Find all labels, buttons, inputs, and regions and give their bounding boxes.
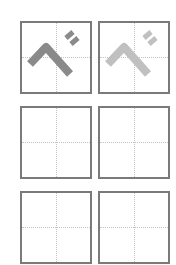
be-glyph-model: [22, 23, 90, 92]
practice-cell-blank[interactable]: [98, 191, 170, 264]
be-glyph-trace: [100, 23, 168, 92]
practice-cell-model: [20, 21, 92, 94]
horizontal-guide-line: [22, 142, 90, 143]
practice-cell-blank[interactable]: [20, 106, 92, 179]
practice-cell-trace: [98, 21, 170, 94]
horizontal-guide-line: [22, 227, 90, 228]
practice-cell-blank[interactable]: [98, 106, 170, 179]
horizontal-guide-line: [100, 227, 168, 228]
horizontal-guide-line: [100, 142, 168, 143]
practice-cell-blank[interactable]: [20, 191, 92, 264]
